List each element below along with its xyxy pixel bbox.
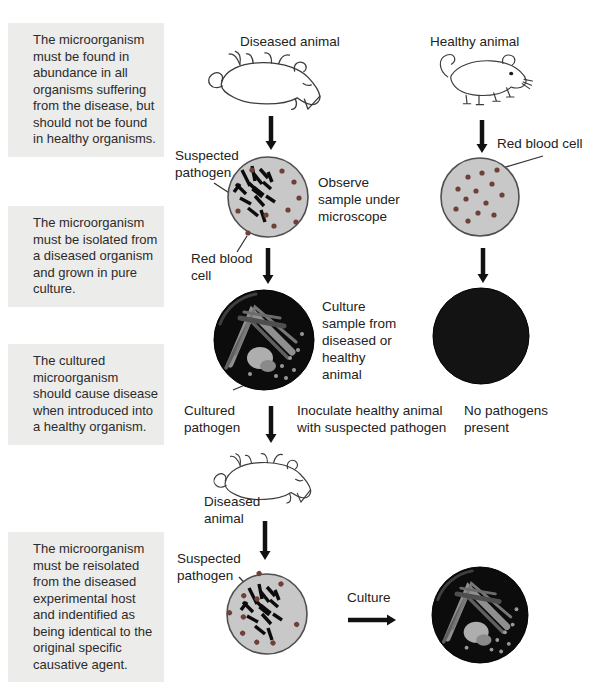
- label-diseased-animal-mid: Diseased animal: [204, 493, 268, 527]
- arrow-right-icon: [348, 615, 396, 626]
- label-suspected-pathogen-top: Suspected pathogen: [175, 147, 247, 181]
- culture-dish-icon: [214, 290, 314, 390]
- diagram-graphics: [0, 0, 603, 692]
- label-diseased-animal-top: Diseased animal: [240, 33, 340, 50]
- microscope-sample-healthy-icon: [441, 158, 519, 236]
- dead-mouse-icon: [207, 50, 322, 111]
- healthy-mouse-icon: [440, 55, 532, 105]
- diagram-canvas: The microorganism must be found in abund…: [0, 0, 603, 692]
- label-healthy-animal: Healthy animal: [430, 33, 519, 50]
- culture-dish-icon: [432, 567, 528, 663]
- empty-culture-dish-icon: [433, 288, 529, 384]
- label-red-blood-cell-right: Red blood cell: [497, 135, 583, 152]
- label-red-blood-cell-left: Red blood cell: [191, 250, 257, 284]
- label-suspected-pathogen-bottom: Suspected pathogen: [177, 550, 253, 584]
- label-culture: Culture: [347, 589, 391, 606]
- label-inoculate: Inoculate healthy animal with suspected …: [297, 402, 447, 436]
- label-no-pathogens: No pathogens present: [464, 402, 559, 436]
- label-cultured-pathogen: Cultured pathogen: [184, 402, 250, 436]
- label-observe-sample: Observe sample under microscope: [318, 174, 413, 225]
- label-culture-sample: Culture sample from diseased or healthy …: [322, 298, 404, 383]
